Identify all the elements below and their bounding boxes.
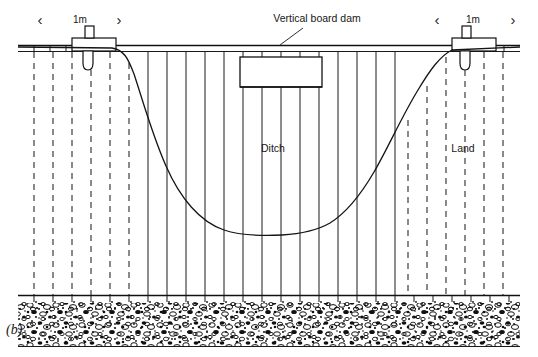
dam-left-board	[83, 51, 93, 70]
gravel-fill-secondary	[18, 303, 520, 346]
dam-label-text: Vertical board dam	[273, 12, 361, 24]
land-label-text: Land	[451, 142, 475, 154]
dam-left-deck	[72, 38, 116, 51]
dimension-right-arrow-end: ›	[511, 11, 516, 28]
ditch-vertical-lines	[148, 52, 395, 295]
dam-left-post	[85, 26, 94, 38]
land-right-dashed-lines	[408, 52, 503, 295]
gravel-subsoil-layer	[18, 300, 520, 347]
figure-panel-b: ‹ 1m › ‹ 1m › Vertical board dam Ditch L…	[0, 0, 538, 357]
dam-right-board	[460, 51, 470, 70]
dimension-left-arrow-end: ›	[117, 11, 122, 28]
dimension-right-arrow-start: ‹	[435, 11, 440, 28]
gravel-top-speckle	[18, 300, 520, 309]
water-level-rect	[240, 57, 322, 87]
land-left-dashed-lines	[34, 52, 129, 295]
dam-right-post	[462, 26, 471, 38]
dam-callout: Vertical board dam	[273, 12, 361, 45]
water-level-box	[240, 57, 322, 87]
dimension-right-value: 1m	[466, 14, 480, 25]
dimension-left-arrow-start: ‹	[38, 11, 43, 28]
ditch-label-text: Ditch	[261, 142, 285, 154]
dam-label-leader-line	[280, 28, 303, 45]
dimension-marker-right: ‹ 1m ›	[435, 11, 516, 28]
left-shoulder-ticks	[34, 46, 66, 52]
ditch-cross-section-diagram: ‹ 1m › ‹ 1m › Vertical board dam Ditch L…	[0, 0, 538, 357]
panel-label-text: (b)	[6, 322, 23, 338]
dimension-marker-left: ‹ 1m ›	[38, 11, 122, 28]
dimension-left-value: 1m	[73, 14, 87, 25]
